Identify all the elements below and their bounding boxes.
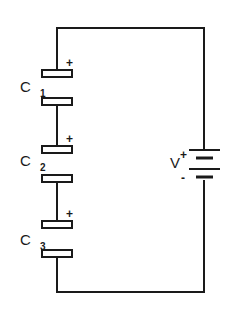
capacitor-c2-plate-positive [42, 146, 72, 153]
capacitor-c1-label: C [20, 78, 31, 95]
battery: V + - [170, 148, 220, 185]
capacitor-c3-plus-sign: + [66, 207, 73, 221]
capacitor-c1-plus-sign: + [66, 56, 73, 70]
capacitor-c3-label: C [20, 231, 31, 248]
capacitor-c3: + C 3 [20, 207, 73, 257]
battery-plus-sign: + [180, 148, 187, 162]
capacitor-c3-plate-negative [42, 250, 72, 257]
circuit-diagram: + C 1 + C 2 + C 3 V + - [0, 0, 234, 320]
capacitor-c2: + C 2 [20, 132, 73, 182]
wire-bottom [57, 180, 204, 292]
battery-minus-sign: - [181, 171, 185, 185]
capacitor-c2-subscript: 2 [40, 162, 46, 173]
wire-top [57, 28, 204, 150]
capacitor-c2-plate-negative [42, 175, 72, 182]
capacitor-c1-plate-positive [42, 70, 72, 77]
capacitor-c3-subscript: 3 [40, 241, 46, 252]
capacitor-c1: + C 1 [20, 56, 73, 105]
capacitor-c1-plate-negative [42, 98, 72, 105]
capacitor-c1-subscript: 1 [40, 88, 46, 99]
capacitor-c2-label: C [20, 152, 31, 169]
capacitor-c3-plate-positive [42, 221, 72, 228]
battery-label: V [170, 154, 180, 171]
capacitor-c2-plus-sign: + [66, 132, 73, 146]
